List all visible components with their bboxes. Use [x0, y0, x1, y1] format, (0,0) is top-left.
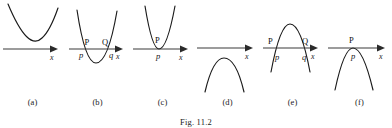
panel-c-sublabel: (c)	[130, 97, 195, 107]
panel-f-graphic: P p x	[327, 0, 392, 100]
x-axis-arrowhead-d	[245, 45, 253, 52]
panel-a-graphic: x	[0, 0, 65, 100]
panel-e: P Q p q x	[260, 0, 325, 100]
point-label-P-f: P	[349, 35, 354, 45]
x-axis-label-f: x	[378, 52, 383, 61]
point-label-P-c: P	[155, 35, 160, 45]
panel-d-sublabel: (d)	[195, 97, 260, 107]
x-axis-arrowhead-f	[377, 45, 385, 52]
x-axis-label-c: x	[178, 53, 183, 62]
root-label-q-b: q	[109, 50, 114, 60]
x-axis-label-b: x	[115, 52, 120, 61]
panel-e-sublabel: (e)	[260, 97, 325, 107]
root-label-p-e: p	[274, 52, 279, 62]
panel-d-graphic: x	[195, 0, 260, 100]
panel-f-sublabel: (f)	[327, 97, 392, 107]
panel-b-graphic: P Q p q x	[65, 0, 130, 100]
panel-f: P p x	[327, 0, 392, 100]
root-label-p-b: p	[78, 50, 83, 60]
parabola-curve-d	[205, 58, 244, 92]
figure-parabola-cases: x (a) P Q p q x (b) P p x (c)	[0, 0, 392, 128]
panel-e-graphic: P Q p q x	[260, 0, 325, 100]
x-axis-label-e: x	[310, 52, 315, 61]
root-label-p-c: p	[155, 51, 160, 61]
root-label-p-f: p	[350, 51, 355, 61]
figure-caption: Fig. 11.2	[0, 117, 392, 127]
parabola-curve-a	[8, 4, 58, 41]
point-label-P-e: P	[268, 36, 273, 46]
panel-a-sublabel: (a)	[0, 97, 65, 107]
point-label-Q-b: Q	[102, 37, 108, 47]
point-label-P-b: P	[85, 37, 90, 47]
x-axis-label-d: x	[244, 52, 249, 61]
point-label-Q-e: Q	[302, 36, 308, 46]
panel-d: x	[195, 0, 260, 100]
x-axis-label-a: x	[49, 53, 54, 62]
x-axis-arrowhead-c	[180, 46, 188, 53]
panel-b-sublabel: (b)	[65, 97, 130, 107]
panel-c: P p x	[130, 0, 195, 100]
x-axis-arrowhead-e	[310, 45, 318, 52]
panel-b: P Q p q x	[65, 0, 130, 100]
panel-c-graphic: P p x	[130, 0, 195, 100]
panel-a: x	[0, 0, 65, 100]
x-axis-arrowhead-a	[50, 46, 58, 53]
parabola-curve-c	[145, 6, 175, 49]
